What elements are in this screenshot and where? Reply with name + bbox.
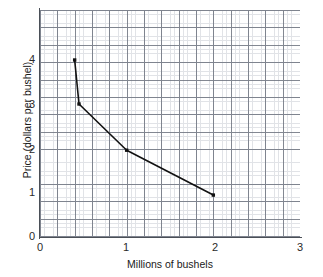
y-tick-label-0: 0 [21,231,35,242]
y-axis-label: Price (dollars per bushel) [21,25,33,215]
major-gridlines [40,10,300,237]
x-axis-label: Millions of bushels [40,258,300,270]
plot-area [40,10,300,237]
x-tick-label-1: 1 [118,242,134,253]
x-tick-label-2: 2 [207,242,223,253]
x-axis-line [39,237,302,238]
chart-figure: 4 3 2 1 0 0 1 2 3 Millions of bushels Pr… [0,0,323,277]
x-tick-label-0: 0 [32,242,48,253]
y-axis-line [39,8,40,239]
x-tick-label-3: 3 [292,242,308,253]
